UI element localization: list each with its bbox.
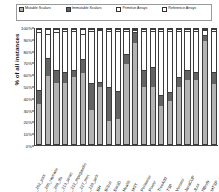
bar-segment bbox=[89, 83, 93, 109]
bar-segment bbox=[54, 32, 58, 70]
bar--205-raytrace bbox=[45, 28, 51, 145]
legend-item-immutable-scalars: Immutable Scalars bbox=[66, 6, 116, 12]
bar--209-db bbox=[53, 28, 59, 145]
bar-segment bbox=[72, 77, 76, 144]
y-axis-tick-label: 60% bbox=[16, 73, 32, 78]
bar-jlex bbox=[193, 28, 199, 145]
legend-label-reference-arrays: Reference Arrays bbox=[168, 6, 196, 10]
bar-segment bbox=[124, 31, 128, 54]
bar-segment bbox=[142, 87, 146, 145]
bar-bh bbox=[97, 28, 103, 145]
y-axis-tick-label: 100% bbox=[16, 26, 32, 31]
bar-segment bbox=[81, 73, 85, 144]
y-axis-tick-label: 80% bbox=[16, 49, 32, 54]
bar-segment bbox=[194, 80, 198, 144]
plot-area: 0%10%20%30%40%50%60%70%80%90%100% bbox=[16, 28, 219, 146]
legend-label-immutable-scalars: Immutable Scalars bbox=[72, 6, 102, 10]
bar-segment bbox=[81, 59, 85, 73]
legend-item-mutable-scalars: Mutable Scalars bbox=[19, 6, 65, 12]
bar-em3d bbox=[115, 28, 121, 145]
bar-segment bbox=[46, 58, 50, 76]
bar-segment bbox=[116, 31, 120, 91]
bar-nbody bbox=[202, 28, 208, 145]
bar-segment bbox=[177, 77, 181, 86]
bar-segment bbox=[212, 31, 216, 71]
legend-item-primitive-arrays: Primitive Arrays bbox=[116, 6, 161, 12]
bar-segment bbox=[203, 41, 207, 145]
bar-segment bbox=[124, 64, 128, 145]
bar--202-jess bbox=[36, 28, 42, 145]
bar-segment bbox=[107, 31, 111, 86]
bar-segment bbox=[159, 95, 163, 107]
bar-segment bbox=[72, 70, 76, 77]
x-axis-tick-label: BH bbox=[96, 185, 103, 192]
bar-segment bbox=[177, 31, 181, 77]
bar-segment bbox=[107, 87, 111, 122]
x-axis-tick-label: MTSP bbox=[210, 180, 219, 192]
bar-segment bbox=[37, 32, 41, 90]
x-axis-labels: _202_jess_205_raytrace_209_db_213_javac_… bbox=[34, 147, 219, 192]
bar-segment bbox=[63, 72, 67, 84]
bar-segment bbox=[46, 76, 50, 144]
y-axis-tick-label: 90% bbox=[16, 37, 32, 42]
chart-legend: Mutable Scalars Immutable Scalars Primit… bbox=[16, 4, 212, 21]
legend-swatch-icon-immutable-scalars bbox=[66, 7, 71, 12]
legend-swatch-icon-mutable-scalars bbox=[19, 7, 24, 12]
bar-segment bbox=[185, 70, 189, 79]
bar-segment bbox=[133, 32, 137, 42]
bar-health bbox=[123, 28, 129, 145]
bar-mtsp bbox=[211, 28, 217, 145]
bar-segment bbox=[151, 67, 155, 87]
y-axis-tick-label: 40% bbox=[16, 96, 32, 101]
bar-segment bbox=[177, 87, 181, 145]
y-axis-tick-label: 70% bbox=[16, 61, 32, 66]
bar-segment bbox=[133, 43, 137, 144]
bar-segment bbox=[54, 70, 58, 83]
x-axis-tick-label: JLex bbox=[193, 182, 201, 192]
bar-segment bbox=[168, 31, 172, 92]
bar-segment bbox=[194, 72, 198, 80]
bar-segment bbox=[124, 54, 128, 63]
x-axis-tick-label: TSP bbox=[166, 183, 174, 192]
bar-segment bbox=[212, 84, 216, 144]
bar-segment bbox=[107, 121, 111, 144]
bar-segment bbox=[142, 31, 146, 70]
x-axis-tick-label: MST bbox=[131, 182, 139, 192]
chart-screenshot: Mutable Scalars Immutable Scalars Primit… bbox=[0, 0, 219, 192]
bar-series-container bbox=[35, 28, 218, 145]
bar-segment bbox=[168, 92, 172, 101]
bar-segment bbox=[89, 31, 93, 83]
bar-segment bbox=[185, 31, 189, 70]
bar-segment bbox=[159, 31, 163, 94]
bar-segment bbox=[63, 31, 67, 71]
bar-segment bbox=[54, 83, 58, 144]
plot-canvas bbox=[34, 28, 218, 146]
bar--222-mpegaudio bbox=[71, 28, 77, 145]
bar--227-mtrt bbox=[80, 28, 86, 145]
legend-swatch-icon-reference-arrays bbox=[162, 7, 167, 12]
bar-segment bbox=[151, 31, 155, 67]
y-axis-tick-label: 0% bbox=[16, 144, 32, 149]
bar-segment bbox=[212, 72, 216, 85]
bar-tsp bbox=[167, 28, 173, 145]
bar-segment bbox=[37, 104, 41, 144]
bar--228-jack bbox=[88, 28, 94, 145]
bar-segment bbox=[37, 90, 41, 104]
bar-segment bbox=[116, 119, 120, 144]
bar-segment bbox=[81, 34, 85, 59]
y-axis-tick-label: 20% bbox=[16, 120, 32, 125]
bar-segment bbox=[89, 110, 93, 145]
legend-swatch-icon-primitive-arrays bbox=[116, 7, 121, 12]
bar-segment bbox=[168, 101, 172, 144]
bar-segment bbox=[151, 87, 155, 145]
bar-segment bbox=[72, 31, 76, 70]
bar-segment bbox=[98, 30, 102, 82]
bar-javacup bbox=[184, 28, 190, 145]
bar-power bbox=[150, 28, 156, 145]
legend-label-mutable-scalars: Mutable Scalars bbox=[25, 6, 51, 10]
bar-voronoi bbox=[176, 28, 182, 145]
bar-segment bbox=[63, 83, 67, 144]
bar--213-javac bbox=[62, 28, 68, 145]
legend-item-reference-arrays: Reference Arrays bbox=[162, 6, 210, 12]
bar-segment bbox=[159, 106, 163, 144]
